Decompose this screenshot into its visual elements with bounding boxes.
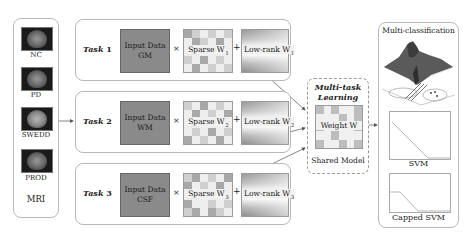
shared-model-label: Shared Model bbox=[308, 156, 368, 165]
plus-sign: + bbox=[233, 186, 241, 196]
lowrank-matrix-2: Low-rank W2 bbox=[241, 101, 289, 145]
multiply-sign: × bbox=[173, 44, 180, 53]
plus-sign: + bbox=[233, 114, 241, 124]
shared-model-panel: Multi-taskLearning Weight W Shared Model bbox=[307, 78, 369, 174]
brain-scan-nc bbox=[21, 27, 53, 51]
brain-scan-swedd bbox=[21, 107, 53, 131]
classification-panel: Multi-classification SVM Capped SVM bbox=[378, 22, 459, 228]
task-2-panel: Task 2 Input DataWM × Sparse W2 + Low-ra… bbox=[75, 91, 291, 153]
brain-scan-pd bbox=[21, 67, 53, 91]
task-1-label: Task 1 bbox=[83, 44, 112, 54]
svm-label: SVM bbox=[379, 159, 458, 168]
capped-svm-label: Capped SVM bbox=[379, 213, 458, 222]
shared-model-title: Multi-taskLearning bbox=[308, 82, 368, 102]
task-3-panel: Task 3 Input DataCSF × Sparse W3 + Low-r… bbox=[75, 163, 291, 225]
multiply-sign: × bbox=[173, 116, 180, 125]
scan-label-prod: PROD bbox=[14, 174, 58, 182]
input-data-wm: Input DataWM bbox=[120, 101, 170, 145]
plus-sign: + bbox=[233, 42, 241, 52]
task-3-label: Task 3 bbox=[83, 188, 112, 198]
task-2-label: Task 2 bbox=[83, 116, 112, 126]
scan-label-pd: PD bbox=[14, 91, 58, 99]
lowrank-matrix-1: Low-rank W1 bbox=[241, 29, 289, 73]
mri-panel: NC PD SWEDD PROD MRI bbox=[13, 18, 59, 218]
sparse-matrix-3: Sparse W3 bbox=[183, 173, 233, 217]
scan-label-nc: NC bbox=[14, 51, 58, 59]
surface-plot bbox=[379, 37, 458, 107]
lowrank-matrix-3: Low-rank W3 bbox=[241, 173, 289, 217]
scan-label-swedd: SWEDD bbox=[14, 131, 58, 139]
sparse-matrix-2: Sparse W2 bbox=[183, 101, 233, 145]
multiply-sign: × bbox=[173, 188, 180, 197]
input-data-gm: Input DataGM bbox=[120, 29, 170, 73]
weight-matrix: Weight W bbox=[315, 105, 363, 149]
brain-scan-prod bbox=[21, 149, 53, 173]
capped-svm-plot bbox=[389, 173, 451, 213]
task-1-panel: Task 1 Input DataGM × Sparse W1 + Low-ra… bbox=[75, 19, 291, 81]
mri-title: MRI bbox=[14, 194, 58, 204]
multi-classification-title: Multi-classification bbox=[379, 26, 458, 35]
input-data-csf: Input DataCSF bbox=[120, 173, 170, 217]
sparse-matrix-1: Sparse W1 bbox=[183, 29, 233, 73]
svm-loss-plot bbox=[389, 111, 451, 160]
